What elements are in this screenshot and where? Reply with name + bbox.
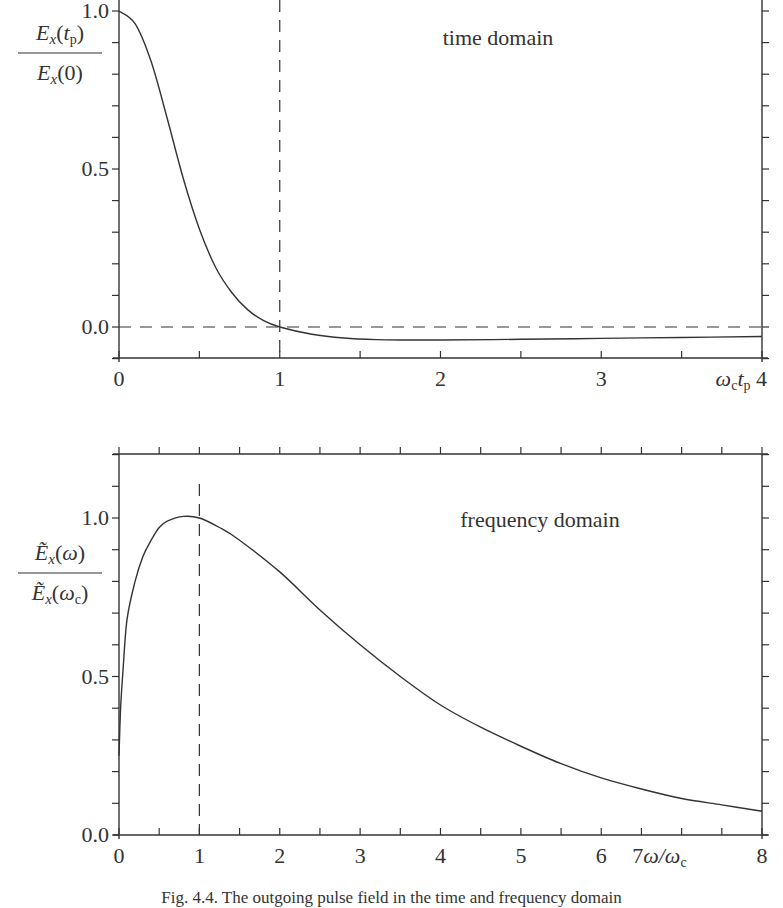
y-axis-label-numerator: Ex(tp) [35,20,84,47]
y-axis-label-denominator: Ẽx(ωc) [31,580,89,607]
data-curve [119,11,762,340]
y-axis-label-denominator: Ex(0) [36,60,83,87]
plot-annotation: time domain [443,25,554,50]
x-tick-label: 0 [114,366,125,391]
figure-caption: Fig. 4.4. The outgoing pulse field in th… [0,888,783,908]
x-tick-label: 8 [757,843,768,868]
plot-annotation: frequency domain [460,507,619,532]
y-tick-label: 0.0 [82,314,110,339]
x-axis-label: 7ω/ωc [632,843,686,870]
y-tick-label: 0.5 [82,156,110,181]
x-tick-label: 3 [355,843,366,868]
x-tick-label: 6 [596,843,607,868]
x-tick-label: 2 [274,843,285,868]
y-tick-label: 0.5 [82,664,110,689]
x-tick-label: 4 [435,843,446,868]
x-tick-label: 1 [274,366,285,391]
x-tick-label: 3 [596,366,607,391]
y-axis-label-numerator: Ẽx(ω) [34,540,85,567]
y-tick-label: 1.0 [82,0,110,23]
x-tick-label: 0 [114,843,125,868]
y-tick-label: 1.0 [82,505,110,530]
x-tick-label: 5 [515,843,526,868]
y-tick-label: 0.0 [82,822,110,847]
x-axis-label: ωctp 4 [716,366,767,393]
x-tick-label: 1 [194,843,205,868]
x-tick-label: 2 [435,366,446,391]
data-curve [119,516,762,811]
frequency-domain-plot: 01234567ω/ωc80.00.51.0Ẽx(ω)Ẽx(ωc)frequen… [18,447,769,870]
time-domain-plot: 0123ωctp 40.00.51.0Ex(tp)Ex(0)time domai… [18,0,769,393]
